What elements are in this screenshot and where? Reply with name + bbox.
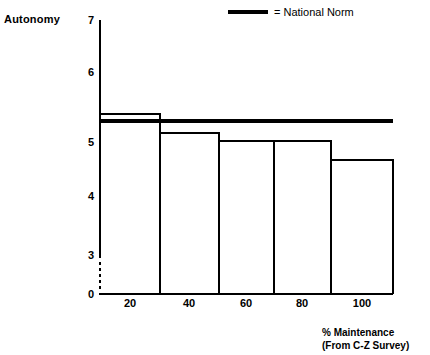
- x-tick-label-60: 60: [226, 297, 266, 309]
- x-axis-title-line1: % Maintenance: [322, 326, 409, 339]
- bar-40: [160, 133, 219, 294]
- x-tick-label-80: 80: [282, 297, 322, 309]
- x-tick-label-40: 40: [169, 297, 209, 309]
- bar-100: [331, 160, 393, 294]
- bar-80: [274, 141, 331, 294]
- bar-60: [219, 141, 274, 294]
- chart-canvas: [0, 0, 430, 320]
- autonomy-maintenance-bar-chart: Autonomy = National Norm 7 6 5 4 3 0: [0, 0, 430, 355]
- x-tick-label-20: 20: [110, 297, 150, 309]
- x-axis-title: % Maintenance (From C-Z Survey): [322, 326, 409, 352]
- x-axis-title-line2: (From C-Z Survey): [322, 339, 409, 352]
- plot-area: [0, 0, 430, 320]
- x-tick-label-100: 100: [342, 297, 382, 309]
- bar-20: [100, 114, 160, 294]
